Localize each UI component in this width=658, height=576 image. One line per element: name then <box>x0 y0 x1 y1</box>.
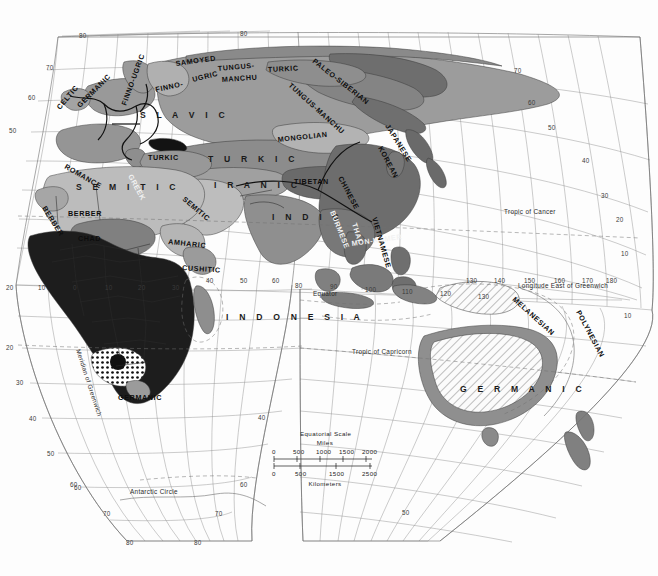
grat-top-1: 80 <box>79 32 87 39</box>
scale-km-1500: 1500 <box>329 470 345 477</box>
scale-km-0: 0 <box>272 470 276 477</box>
grat-left-60: 60 <box>28 94 36 101</box>
grat-bot-60b: 60 <box>240 481 248 488</box>
khoisan-inner <box>110 354 126 370</box>
scale-km-500: 500 <box>295 470 307 477</box>
grat-bot-40: 40 <box>258 414 266 421</box>
eq-60: 60 <box>272 277 280 284</box>
grat-bot-80: 80 <box>126 539 134 546</box>
eq-50: 50 <box>240 277 248 284</box>
label-chad: CHAD <box>78 234 101 243</box>
eq-120: 120 <box>440 290 451 297</box>
eq-90: 90 <box>330 283 338 290</box>
label-cushitic: CUSHITIC <box>182 263 221 275</box>
eq-10: 10 <box>105 284 113 291</box>
label-slavic: S L A V I C <box>140 110 229 120</box>
region-berber-west <box>35 187 68 211</box>
grat-right-40: 40 <box>582 157 590 164</box>
map-canvas: CELTIC GERMANIC ROMANCE FINNO-UGRIC FINN… <box>0 0 658 576</box>
world-language-map: CELTIC GERMANIC ROMANCE FINNO-UGRIC FINN… <box>0 0 658 576</box>
eq-100: 100 <box>365 286 376 293</box>
eq-30: 30 <box>172 284 180 291</box>
aus-130: 130 <box>466 277 477 284</box>
region-tasmania <box>482 428 499 447</box>
grat-left-20b: 20 <box>6 344 14 351</box>
scale-mi-0: 0 <box>272 448 276 455</box>
grat-left-50: 50 <box>9 127 17 134</box>
grat-left-20a: 20 <box>6 284 14 291</box>
label-turkic-north: TURKIC <box>268 63 299 74</box>
label-turkic-anatolia: TURKIC <box>148 153 179 162</box>
grat-right-70: 70 <box>514 67 522 74</box>
grat-left-50b: 50 <box>47 450 55 457</box>
grat-left-10: 10 <box>38 284 46 291</box>
eq-80: 80 <box>295 282 303 289</box>
grat-bot-80b: 80 <box>194 539 202 546</box>
label-iranic: I R A N I C <box>214 180 301 190</box>
aus-140: 140 <box>494 277 505 284</box>
label-germanic-australia: G E R M A N I C <box>460 384 586 394</box>
grat-right-60: 60 <box>528 99 536 106</box>
aus-150: 150 <box>524 277 535 284</box>
grat-right-10b: 10 <box>624 312 632 319</box>
eq-40: 40 <box>206 277 214 284</box>
grat-left-0: 0 <box>73 284 77 291</box>
aus-160: 160 <box>554 277 565 284</box>
scale-unit-miles: Miles <box>317 439 333 446</box>
aus-170: 170 <box>582 277 593 284</box>
region-japanese-south <box>426 158 446 188</box>
grat-top-2: 80 <box>240 30 248 37</box>
label-turkic-central: T U R K I C <box>208 154 299 164</box>
label-equator: Equator <box>313 290 338 298</box>
region-madagascar <box>194 286 215 334</box>
eq-20: 20 <box>138 284 146 291</box>
eq-130: 130 <box>478 293 489 300</box>
label-berber-main: BERBER <box>68 209 102 218</box>
scale-title: Equatorial Scale <box>300 430 352 437</box>
scale-mi-1000: 1000 <box>316 448 332 455</box>
scale-mi-1500: 1500 <box>339 448 355 455</box>
label-tropic-of-capricorn: Tropic of Capricorn <box>352 348 412 356</box>
label-germanic-safrica: GERMANIC <box>118 393 162 402</box>
grat-right-10: 10 <box>621 250 629 257</box>
grat-right-30: 30 <box>601 192 609 199</box>
grat-right-50: 50 <box>548 124 556 131</box>
aus-180: 180 <box>606 277 617 284</box>
grat-left-30: 30 <box>16 379 24 386</box>
grat-left-40: 40 <box>29 415 37 422</box>
scale-mi-500: 500 <box>293 448 305 455</box>
label-polynesian: POLYNESIAN <box>574 309 606 359</box>
label-antarctic-circle: Antarctic Circle <box>130 488 178 495</box>
eq-110: 110 <box>402 288 413 295</box>
label-semitic-nafrica: S E M I T I C <box>76 182 180 192</box>
grat-bot-60: 60 <box>70 481 78 488</box>
grat-left-70: 70 <box>46 64 54 71</box>
grat-right-20: 20 <box>616 216 624 223</box>
antarctica-coast <box>120 493 266 506</box>
region-indic <box>244 195 323 264</box>
scale-km-2500: 2500 <box>362 470 378 477</box>
scale-unit-km: Kilometers <box>308 480 341 487</box>
antarctic-circle-line <box>140 476 256 480</box>
label-tibetan: TIBETAN <box>294 177 329 186</box>
scale-bar: Equatorial Scale Miles 0 500 1000 1500 2… <box>272 430 378 487</box>
label-tropic-of-cancer: Tropic of Cancer <box>504 208 556 216</box>
scale-mi-2000: 2000 <box>362 448 378 455</box>
label-indonesian-ocean: I N D O N E S I A <box>226 312 364 322</box>
region-philippines <box>391 247 410 275</box>
grat-bot-70b: 70 <box>215 510 223 517</box>
region-sulawesi <box>393 285 437 304</box>
grat-bot-50: 50 <box>402 509 410 516</box>
